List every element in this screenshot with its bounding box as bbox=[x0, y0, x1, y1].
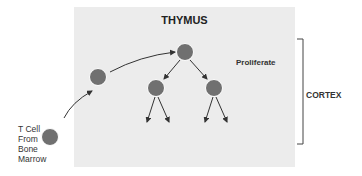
arrow-parent-to-child-right bbox=[190, 60, 207, 79]
arrow-entry-to-parent bbox=[110, 52, 175, 72]
t-cell-source-label: T Cell From Bone Marrow bbox=[18, 124, 58, 164]
thymus-title: THYMUS bbox=[74, 14, 295, 26]
arrow-child-right-a bbox=[205, 97, 213, 122]
t-cell-label-line: Bone bbox=[18, 144, 58, 154]
cell-child-left bbox=[148, 80, 165, 97]
t-cell-label-line: T Cell bbox=[18, 124, 58, 134]
proliferate-label: Proliferate bbox=[236, 58, 276, 67]
arrow-child-left-b bbox=[158, 97, 169, 122]
cell-child-right bbox=[206, 80, 223, 97]
cell-parent bbox=[177, 44, 194, 61]
t-cell-label-line: From bbox=[18, 134, 58, 144]
arrow-parent-to-child-left bbox=[164, 60, 180, 79]
t-cell-label-line: Marrow bbox=[18, 154, 58, 164]
cortex-label: CORTEX bbox=[306, 90, 341, 100]
arrow-child-right-b bbox=[216, 97, 227, 122]
arrow-source-to-entry bbox=[64, 91, 92, 118]
cell-entry bbox=[90, 69, 107, 86]
arrow-child-left-a bbox=[147, 97, 155, 122]
cortex-bracket bbox=[297, 39, 303, 144]
